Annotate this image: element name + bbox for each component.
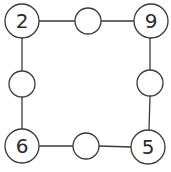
edge-right-bottom-segment (149, 96, 150, 130)
corner-node-bottom-right: 5 (131, 130, 165, 164)
corner-node-bottom-left: 6 (5, 129, 39, 163)
empty-node-top[interactable] (75, 8, 101, 34)
number-square-diagram: 2 9 6 5 (0, 0, 171, 172)
edges (22, 21, 150, 147)
empty-node-bottom[interactable] (73, 133, 99, 159)
corner-label-bottom-left: 6 (16, 134, 29, 158)
empty-node-left[interactable] (9, 71, 35, 97)
empty-node-right[interactable] (137, 70, 163, 96)
corner-label-top-left: 2 (16, 9, 29, 33)
corner-label-top-right: 9 (145, 9, 158, 33)
corner-node-top-left: 2 (5, 4, 39, 38)
corner-label-bottom-right: 5 (142, 135, 155, 159)
corner-node-top-right: 9 (134, 4, 168, 38)
edge-bottom-right-segment (99, 146, 131, 147)
